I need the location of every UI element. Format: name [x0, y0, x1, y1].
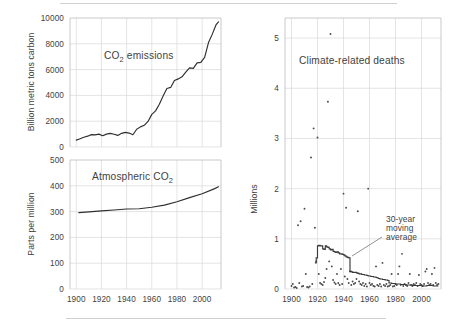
co2-emissions-title: CO2 emissions: [104, 50, 173, 64]
co2-emissions-frame: [70, 18, 221, 147]
scatter-point: [389, 284, 391, 286]
scatter-point: [367, 188, 369, 190]
atmospheric-co2-ytick-400: 400: [50, 182, 64, 191]
page-edge-line-top: [60, 3, 397, 4]
scatter-point: [326, 268, 328, 270]
climate-related-deaths-xtick-2000: 2000: [412, 295, 431, 304]
climate-related-deaths-ytick-5: 5: [274, 34, 279, 43]
co2-emissions-ytick-8000: 8000: [45, 40, 64, 49]
scatter-point: [350, 284, 352, 286]
scatter-point: [309, 286, 311, 288]
panel-atmospheric-co2: 0100200300400500 19001920194019601980200…: [26, 156, 221, 304]
scatter-point: [357, 210, 359, 212]
climate-related-deaths-xtick-1900: 1900: [282, 295, 301, 304]
atmospheric-co2-xtick-1980: 1980: [168, 295, 187, 304]
climate-related-deaths-xtick-1920: 1920: [308, 295, 327, 304]
scatter-point: [402, 285, 404, 287]
scatter-point: [423, 283, 425, 285]
atmospheric-co2-ytick-labels: 0100200300400500: [50, 156, 64, 294]
scatter-point: [313, 127, 315, 129]
scatter-point: [371, 283, 373, 285]
scatter-point: [343, 193, 345, 195]
scatter-point: [331, 265, 333, 267]
scatter-point: [356, 278, 358, 280]
scatter-point: [361, 284, 363, 286]
atmospheric-co2-title: Atmospheric CO2: [92, 171, 173, 185]
panel-climate-related-deaths: 012345 190019201940196019802000 Millions…: [249, 18, 441, 304]
scatter-point: [369, 282, 371, 284]
scatter-point: [336, 273, 338, 275]
co2-emissions-ytick-0: 0: [59, 143, 64, 152]
scatter-point: [339, 284, 341, 286]
scatter-point: [305, 273, 307, 275]
scatter-point: [292, 283, 294, 285]
scatter-point: [391, 273, 393, 275]
co2-emissions-line: [76, 22, 218, 140]
atmospheric-co2-line: [79, 187, 219, 213]
scatter-point: [317, 136, 319, 138]
atmospheric-co2-xtick-1900: 1900: [67, 295, 86, 304]
climate-related-deaths-ytick-4: 4: [274, 84, 279, 93]
scatter-point: [393, 285, 395, 287]
scatter-point: [408, 282, 410, 284]
scatter-point: [384, 285, 386, 287]
scatter-point: [437, 283, 439, 285]
scatter-point: [424, 270, 426, 272]
scatter-point: [427, 282, 429, 284]
scatter-point: [304, 208, 306, 210]
scatter-point: [397, 273, 399, 275]
scatter-point: [322, 284, 324, 286]
atmospheric-co2-ytick-200: 200: [50, 233, 64, 242]
scatter-point: [366, 286, 368, 288]
scatter-point: [362, 282, 364, 284]
scatter-point: [311, 283, 313, 285]
scatter-point: [348, 282, 350, 284]
scatter-point: [328, 260, 330, 262]
scatter-point: [327, 101, 329, 103]
co2-emissions-grid: [70, 18, 221, 147]
atmospheric-co2-xtick-1920: 1920: [92, 295, 111, 304]
scatter-point: [300, 220, 302, 222]
scatter-point: [374, 286, 376, 288]
scatter-point: [418, 274, 420, 276]
scatter-point: [324, 277, 326, 279]
scatter-point: [354, 282, 356, 284]
scatter-point: [335, 283, 337, 285]
scatter-point: [409, 273, 411, 275]
scatter-point: [378, 285, 380, 287]
climate-related-deaths-xtick-1980: 1980: [386, 295, 405, 304]
scatter-point: [333, 282, 335, 284]
scatter-point: [310, 157, 312, 159]
scatter-point: [401, 253, 403, 255]
scatter-point: [340, 268, 342, 270]
climate-figure: 0200040006000800010000 Billion metric to…: [0, 0, 457, 327]
annotation-leader-line: [352, 237, 382, 256]
atmospheric-co2-xtick-labels: 190019201940196019802000: [67, 295, 212, 304]
scatter-point: [382, 262, 384, 264]
atmospheric-co2-xtick-2000: 2000: [193, 295, 212, 304]
scatter-point: [296, 287, 298, 289]
scatter-point: [398, 265, 400, 267]
panel-co2-emissions: 0200040006000800010000 Billion metric to…: [26, 14, 221, 152]
co2-emissions-ytick-4000: 4000: [45, 91, 64, 100]
scatter-point: [330, 33, 332, 35]
scatter-point: [345, 207, 347, 209]
climate-related-deaths-ytick-3: 3: [274, 134, 279, 143]
moving-average-annotation: 30-year moving average: [386, 214, 417, 242]
scatter-point: [363, 285, 365, 287]
scatter-point: [375, 265, 377, 267]
atmospheric-co2-xtick-1940: 1940: [117, 295, 136, 304]
co2-emissions-ytick-2000: 2000: [45, 117, 64, 126]
climate-deaths-title: Climate-related deaths: [299, 55, 405, 66]
co2-emissions-ytick-6000: 6000: [45, 66, 64, 75]
annotation-line-3: average: [386, 232, 417, 242]
scatter-point: [291, 285, 293, 287]
scatter-point: [358, 281, 360, 283]
co2-emissions-ylabel: Billion metric tons carbon: [26, 33, 36, 132]
scatter-point: [298, 282, 300, 284]
atmospheric-co2-ytick-100: 100: [50, 259, 64, 268]
atmospheric-co2-xtick-1960: 1960: [142, 295, 161, 304]
atmospheric-co2-ytick-500: 500: [50, 156, 64, 165]
scatter-point: [385, 283, 387, 285]
scatter-point: [337, 282, 339, 284]
